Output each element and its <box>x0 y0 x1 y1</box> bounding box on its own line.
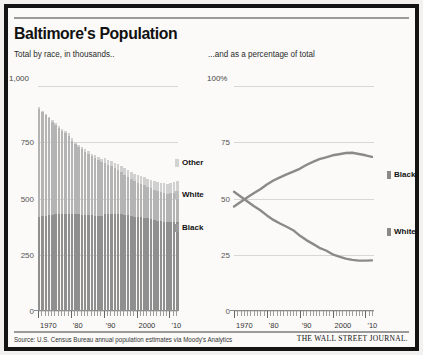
bottom-rule <box>14 331 409 333</box>
bar-segment-other <box>130 172 132 179</box>
bar-column <box>156 182 158 311</box>
bar-segment-other <box>38 107 40 108</box>
bar-segment-other <box>100 159 102 162</box>
bar-segment-white <box>51 122 53 215</box>
bar-column <box>87 151 89 311</box>
bar-segment-white <box>169 193 171 222</box>
x-axis-tick <box>127 311 128 316</box>
x-axis-tick <box>359 311 360 316</box>
x-axis-tick <box>45 311 46 316</box>
bar-column <box>38 107 40 311</box>
bar-segment-white <box>68 136 70 214</box>
bar-column <box>143 177 145 311</box>
bar-segment-black <box>94 216 96 311</box>
bar-segment-black <box>100 216 102 311</box>
x-axis-tick <box>264 311 265 316</box>
x-axis-tick <box>133 311 134 316</box>
x-axis-tick <box>58 311 59 316</box>
bar-segment-black <box>150 219 152 311</box>
x-axis-tick <box>48 311 49 316</box>
bar-column <box>100 159 102 311</box>
x-axis-tick <box>349 311 350 316</box>
bar-segment-other <box>133 174 135 181</box>
bar-segment-white <box>84 152 86 215</box>
x-axis-tick <box>41 311 42 316</box>
bar-column <box>169 183 171 311</box>
bar-segment-black <box>120 214 122 311</box>
bar-segment-other <box>97 157 99 160</box>
bar-segment-white <box>38 109 40 217</box>
bar-segment-white <box>153 190 155 220</box>
chart-title: Baltimore's Population <box>14 24 177 44</box>
bar-segment-other <box>169 183 171 194</box>
legend-label: White <box>394 227 416 236</box>
bar-column <box>77 145 79 312</box>
left-chart-panel: 02505007501970'80'902000'10 <box>8 68 198 318</box>
screenshot-root: Baltimore's Population Total by race, in… <box>0 0 423 355</box>
bar-column <box>110 161 112 311</box>
publisher-brand: THE WALL STREET JOURNAL. <box>297 334 408 343</box>
bar-segment-other <box>54 123 56 125</box>
bar-column <box>114 163 116 312</box>
bar-segment-white <box>127 177 129 216</box>
gridline <box>38 86 178 87</box>
x-axis-tick <box>254 311 255 316</box>
x-axis-major-tick <box>104 311 105 318</box>
legend-item-left-white[interactable]: White <box>175 190 204 199</box>
bar-column <box>153 181 155 311</box>
bar-segment-other <box>87 151 89 154</box>
bar-segment-black <box>173 222 175 311</box>
legend-item-left-other[interactable]: Other <box>175 158 203 167</box>
x-axis-tick <box>107 311 108 316</box>
x-axis-tick <box>296 311 297 316</box>
bar-segment-black <box>114 214 116 311</box>
legend-swatch-icon <box>175 191 179 199</box>
legend-item-left-black[interactable]: Black <box>175 223 203 232</box>
bar-segment-other <box>104 158 106 163</box>
bar-column <box>81 147 83 311</box>
bar-column <box>133 174 135 311</box>
x-axis-tick <box>352 311 353 316</box>
bar-column <box>127 170 129 311</box>
x-axis-tick <box>250 311 251 316</box>
x-axis-tick-label: 2000 <box>335 321 352 330</box>
bar-segment-white <box>140 184 142 217</box>
x-axis-tick <box>173 311 174 316</box>
bar-segment-white <box>146 187 148 219</box>
bar-segment-black <box>169 222 171 311</box>
x-axis-tick <box>283 311 284 316</box>
bar-column <box>120 166 122 311</box>
bar-segment-white <box>64 133 66 214</box>
y-axis-tick-label: 0 <box>30 307 34 316</box>
x-axis-tick <box>329 311 330 316</box>
x-axis-tick <box>319 311 320 316</box>
x-axis-tick <box>81 311 82 316</box>
right-plot-area: 02550751970'80'902000'10 <box>234 86 374 311</box>
legend-item-right-black[interactable]: Black <box>387 170 415 179</box>
bar-segment-black <box>64 214 66 311</box>
x-axis-tick <box>110 311 111 316</box>
y-axis-tick-label: 500 <box>21 194 34 203</box>
x-axis-tick <box>237 311 238 316</box>
bar-segment-white <box>107 165 109 214</box>
bar-segment-black <box>74 214 76 311</box>
bar-segment-white <box>104 163 106 214</box>
x-axis-tick <box>77 311 78 316</box>
bar-column <box>160 183 162 311</box>
bar-segment-black <box>97 216 99 311</box>
bar-segment-black <box>160 221 162 311</box>
x-axis-tick <box>97 311 98 316</box>
bar-segment-other <box>77 145 79 147</box>
x-axis-tick <box>140 311 141 316</box>
bar-segment-white <box>71 141 73 214</box>
x-axis-tick <box>342 311 343 316</box>
x-axis-tick <box>130 311 131 316</box>
x-axis-tick <box>247 311 248 316</box>
x-axis-tick <box>153 311 154 316</box>
legend-item-right-white[interactable]: White <box>387 227 416 236</box>
x-axis-tick <box>313 311 314 316</box>
bar-column <box>58 126 60 311</box>
bar-column <box>74 142 76 311</box>
x-axis-tick <box>362 311 363 316</box>
bar-segment-other <box>45 114 47 115</box>
